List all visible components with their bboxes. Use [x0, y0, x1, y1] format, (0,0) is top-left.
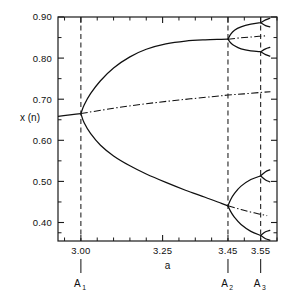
branch-period8-a-dn [261, 23, 270, 27]
y-tick-label: 0.80 [33, 53, 52, 64]
y-tick-label: 0.60 [33, 135, 52, 146]
y-tick-label: 0.40 [33, 217, 52, 228]
x-tick-label: 3.55 [251, 245, 270, 256]
branch-period8-d-up [261, 230, 270, 235]
branch-period2-lower-unstable [228, 206, 267, 216]
y-tick-label: 0.70 [33, 94, 52, 105]
bifurcation-diagram-figure: 0.900.800.700.600.500.403.003.253.453.55… [0, 0, 291, 299]
marker-label-main: A [74, 278, 81, 289]
marker-label-A2: A2 [221, 278, 233, 291]
branch-curves-group [58, 18, 270, 240]
marker-label-main: A [254, 278, 261, 289]
branch-period8-d-dn [261, 235, 270, 240]
branch-period4-branch-c [228, 176, 261, 206]
marker-label-sub: 1 [82, 284, 86, 291]
branch-period8-b-dn [261, 52, 270, 56]
y-tick-label: 0.50 [33, 176, 52, 187]
branch-period2-upper-stable [81, 39, 228, 113]
branch-fixed-point-unstable [81, 92, 271, 114]
x-tick-label: 3.45 [218, 245, 237, 256]
marker-label-sub: 2 [229, 284, 233, 291]
marker-label-main: A [221, 278, 228, 289]
branch-period4-branch-b [228, 39, 261, 52]
marker-label-A1: A1 [74, 278, 86, 291]
branch-period2-lower-stable [81, 114, 228, 206]
y-tick-label: 0.90 [33, 11, 52, 22]
axis-frame [58, 17, 277, 241]
x-tick-label: 3.00 [71, 245, 90, 256]
x-axis-title: a [165, 260, 171, 271]
x-tick-label: 3.25 [153, 245, 172, 256]
bifurcation-plot: 0.900.800.700.600.500.403.003.253.453.55… [0, 0, 291, 299]
y-axis-title: x (n) [20, 112, 40, 123]
marker-label-sub: 3 [262, 284, 266, 291]
branch-period2-upper-unstable [228, 36, 267, 39]
branch-period8-b-up [261, 47, 270, 51]
branch-period8-c-dn [261, 176, 270, 182]
branch-period8-c-up [261, 170, 270, 176]
branch-fixed-point-stable [58, 114, 81, 117]
branch-period8-a-up [261, 18, 270, 23]
marker-label-A3: A3 [254, 278, 266, 291]
